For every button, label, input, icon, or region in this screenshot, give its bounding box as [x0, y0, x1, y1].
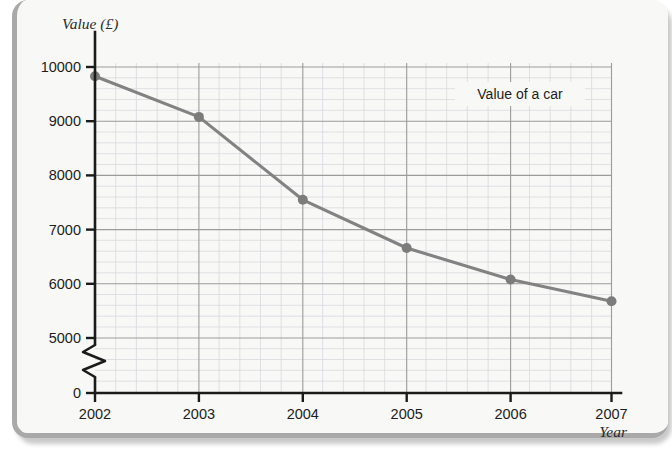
- x-axis-ticks: [95, 393, 612, 402]
- y-axis-tick-labels: 10000 9000 8000 7000 6000 5000 0: [41, 59, 81, 401]
- annotation-text: Value of a car: [477, 86, 563, 102]
- y-tick-label: 10000: [41, 59, 81, 75]
- x-tick-label: 2006: [494, 406, 526, 422]
- x-axis-tick-labels: 2002 2003 2004 2005 2006 2007: [79, 406, 628, 422]
- y-axis-title: Value (£): [62, 15, 118, 33]
- x-tick-label: 2005: [391, 406, 423, 422]
- y-axis-break-zigzag: [83, 345, 105, 377]
- data-point: [298, 195, 308, 205]
- annotation-group: Value of a car: [455, 82, 585, 106]
- y-axis-ticks: [86, 67, 95, 393]
- x-tick-label: 2004: [287, 406, 319, 422]
- data-point: [607, 296, 617, 306]
- data-point: [194, 112, 204, 122]
- x-tick-label: 2003: [183, 406, 215, 422]
- data-point: [506, 275, 516, 285]
- y-tick-label: 7000: [49, 222, 81, 238]
- y-tick-label: 0: [73, 385, 81, 401]
- major-gridlines: [95, 63, 612, 393]
- minor-gridlines: [95, 63, 612, 393]
- x-axis-title: Year: [599, 423, 628, 440]
- x-tick-label: 2007: [595, 406, 627, 422]
- y-tick-label: 5000: [49, 330, 81, 346]
- y-tick-label: 6000: [49, 276, 81, 292]
- y-tick-label: 8000: [49, 167, 81, 183]
- y-tick-label: 9000: [49, 113, 81, 129]
- x-tick-label: 2002: [79, 406, 111, 422]
- data-point: [402, 243, 412, 253]
